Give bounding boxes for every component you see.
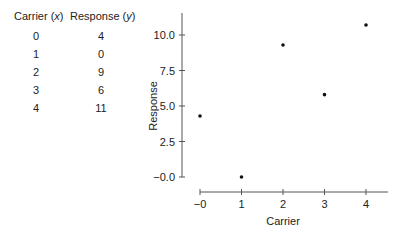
y-tick-label: 7.5 <box>160 65 175 77</box>
data-point <box>198 114 202 118</box>
x-tick-label: 3 <box>321 198 327 210</box>
y-axis-label: Response <box>147 81 159 131</box>
x-tick-label: 2 <box>280 198 286 210</box>
scatter-plot: −0.02.55.07.510.0 −01234 Carrier Respons… <box>0 0 407 235</box>
x-tick-label: 4 <box>363 198 369 210</box>
y-tick-label: 2.5 <box>160 136 175 148</box>
data-point <box>240 175 244 179</box>
x-tick-label: 1 <box>238 198 244 210</box>
data-points <box>198 23 368 179</box>
data-point <box>323 93 327 97</box>
x-axis: −01234 <box>194 189 388 210</box>
x-tick-label: −0 <box>194 198 207 210</box>
data-point <box>364 23 368 27</box>
y-tick-label: 10.0 <box>154 29 175 41</box>
y-tick-label: 5.0 <box>160 100 175 112</box>
data-point <box>281 43 285 47</box>
y-tick-label: −0.0 <box>153 171 175 183</box>
x-axis-label: Carrier <box>266 215 300 227</box>
